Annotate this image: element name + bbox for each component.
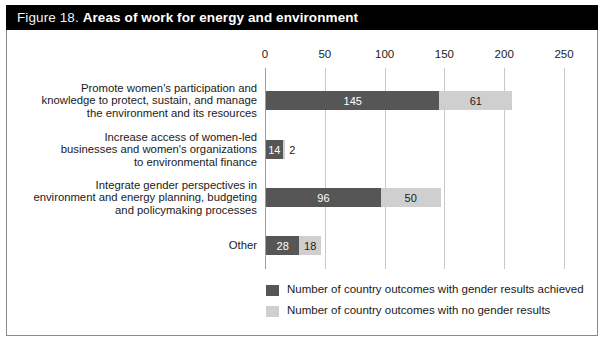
legend: Number of country outcomes with gender r… xyxy=(266,281,584,323)
x-axis-tick-label: 0 xyxy=(262,48,268,60)
bar-segment-no-results: 18 xyxy=(299,236,321,255)
bar-segment-no-results: 50 xyxy=(381,188,441,207)
legend-label: Number of country outcomes with gender r… xyxy=(287,284,584,296)
x-axis-tick-label: 250 xyxy=(554,48,573,60)
category-label: Promote women's participation andknowled… xyxy=(0,82,257,120)
figure-title-text: Areas of work for energy and environment xyxy=(83,10,359,25)
category-label-line: and policymaking processes xyxy=(0,204,257,217)
legend-label: Number of country outcomes with no gende… xyxy=(287,305,550,317)
category-label-line: businesses and women's organizations xyxy=(0,143,257,156)
category-label-line: knowledge to protect, sustain, and manag… xyxy=(0,94,257,107)
bar-segment-achieved: 14 xyxy=(266,140,283,159)
bar-segment-achieved: 96 xyxy=(266,188,381,207)
x-axis-tick-label: 150 xyxy=(435,48,454,60)
x-axis-tick-label: 100 xyxy=(375,48,394,60)
figure-title: Figure 18. Areas of work for energy and … xyxy=(17,11,358,25)
figure-container: Figure 18. Areas of work for energy and … xyxy=(0,0,604,342)
legend-item: Number of country outcomes with no gende… xyxy=(266,302,584,320)
x-axis-tick-label: 200 xyxy=(495,48,514,60)
legend-item: Number of country outcomes with gender r… xyxy=(266,281,584,299)
category-label-line: Other xyxy=(0,239,257,252)
category-label-line: Integrate gender perspectives in xyxy=(0,179,257,192)
category-label-line: Promote women's participation and xyxy=(0,82,257,95)
category-label: Other xyxy=(0,239,257,252)
legend-swatch-icon xyxy=(266,306,279,317)
category-label: Integrate gender perspectives inenvironm… xyxy=(0,179,257,217)
category-label: Increase access of women-ledbusinesses a… xyxy=(0,131,257,169)
bar-segment-achieved: 28 xyxy=(266,236,299,255)
category-label-line: environment and energy planning, budgeti… xyxy=(0,191,257,204)
bar-segment-achieved: 145 xyxy=(266,91,439,110)
gridline-250 xyxy=(564,68,565,269)
legend-swatch-icon xyxy=(266,285,279,296)
figure-number: Figure 18. xyxy=(17,10,79,25)
category-label-line: the environment and its resources xyxy=(0,107,257,120)
bar-segment-no-results: 61 xyxy=(439,91,512,110)
bar-value-label-outside: 2 xyxy=(285,140,295,159)
category-label-line: Increase access of women-led xyxy=(0,131,257,144)
category-label-line: to environmental finance xyxy=(0,156,257,169)
figure-title-bar: Figure 18. Areas of work for energy and … xyxy=(6,5,598,30)
x-axis-tick-label: 50 xyxy=(318,48,331,60)
